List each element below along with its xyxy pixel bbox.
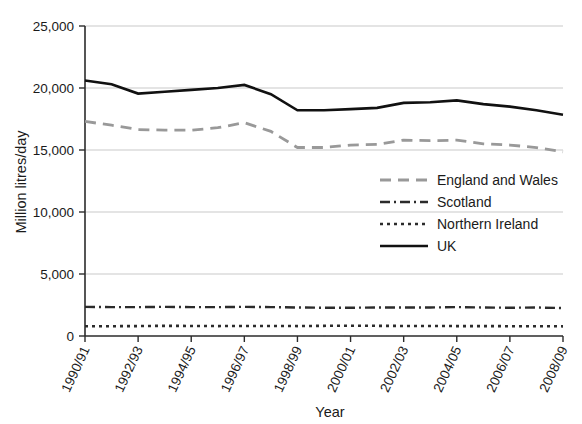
- x-tick-label: 1994/95: [165, 344, 199, 395]
- legend-label: England and Wales: [437, 172, 558, 188]
- y-tick-label: 5,000: [40, 267, 74, 282]
- x-tick-label: 2002/03: [377, 344, 411, 395]
- x-axis-title: Year: [315, 404, 344, 420]
- x-tick-label: 2008/09: [536, 344, 570, 395]
- y-tick-label: 15,000: [33, 143, 74, 158]
- x-tick-label: 2004/05: [430, 344, 464, 395]
- x-tick-label: 1998/99: [271, 344, 305, 395]
- x-tick-label: 1992/93: [112, 344, 146, 395]
- x-tick-label: 1996/97: [218, 344, 252, 395]
- x-tick-label: 2006/07: [483, 344, 517, 395]
- series-line: [85, 81, 563, 115]
- series-line: [85, 326, 563, 327]
- y-tick-label: 10,000: [33, 205, 74, 220]
- y-tick-label: 20,000: [33, 81, 74, 96]
- y-tick-label: 25,000: [33, 19, 74, 34]
- y-tick-label: 0: [66, 329, 74, 344]
- chart-legend: England and WalesScotlandNorthern Irelan…: [380, 172, 558, 254]
- x-tick-label: 2000/01: [324, 344, 358, 395]
- legend-label: Northern Ireland: [437, 216, 538, 232]
- x-axis-tick-labels: 1990/911992/931994/951996/971998/992000/…: [58, 344, 570, 395]
- y-axis-tick-labels: 05,00010,00015,00020,00025,000: [33, 19, 74, 344]
- x-tick-label: 1990/91: [58, 344, 92, 395]
- y-axis-ticks: [79, 26, 85, 336]
- legend-label: Scotland: [437, 194, 491, 210]
- gridlines: [85, 26, 563, 274]
- chart-canvas: 05,00010,00015,00020,00025,000 1990/9119…: [0, 0, 582, 424]
- x-axis-ticks: [85, 336, 563, 342]
- line-chart: 05,00010,00015,00020,00025,000 1990/9119…: [0, 0, 582, 424]
- legend-label: UK: [437, 238, 457, 254]
- series-line: [85, 307, 563, 308]
- y-axis-title: Million litres/day: [13, 130, 29, 234]
- series-line: [85, 121, 563, 151]
